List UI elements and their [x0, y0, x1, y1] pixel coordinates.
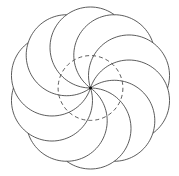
swirl-arc — [67, 88, 131, 169]
swirl-rosette-diagram — [0, 0, 179, 176]
swirl-arc — [11, 88, 92, 141]
swirl-arc — [11, 43, 90, 116]
swirl-arc — [89, 35, 170, 88]
swirl-arc — [74, 15, 153, 88]
swirl-arc — [91, 80, 155, 161]
swirl-arc — [91, 60, 170, 133]
swirl-arc — [28, 88, 107, 161]
swirl-arc — [50, 7, 114, 88]
center-point — [89, 86, 92, 89]
